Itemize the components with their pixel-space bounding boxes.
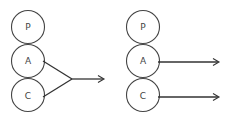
left-node-p: P [12,11,45,44]
right-node-p: P [127,11,160,44]
left-panel: P A C [12,11,105,112]
diagram-canvas: P A C P A C [0,0,233,117]
left-node-c: C [12,79,45,112]
left-node-a: A [12,45,45,78]
right-panel: P A C [127,11,220,112]
node-label: C [140,91,146,101]
node-label: C [25,91,31,101]
edge-c-to-merge [43,79,72,97]
right-node-a: A [127,45,160,78]
edge-a-to-merge [43,61,72,79]
node-label: A [140,56,147,66]
node-label: P [25,22,31,32]
right-node-c: C [127,79,160,112]
node-label: P [140,22,146,32]
node-label: A [25,56,32,66]
